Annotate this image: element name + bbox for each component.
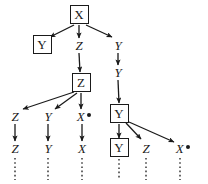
tree-edge-n0-to-n1 (50, 25, 74, 37)
node-label: Z (11, 142, 18, 155)
derivation-tree-figure: XYZYZYYZYXZYXYZX (0, 0, 208, 184)
node-label: Z (142, 142, 149, 155)
node-label: Y (37, 38, 46, 51)
node-label: X (77, 110, 85, 123)
tree-node-n15-x: X (172, 141, 194, 155)
terminal-marker-dot-icon (87, 113, 91, 117)
tree-node-n11-y: Y (41, 141, 55, 155)
node-label: Z (77, 76, 85, 89)
tree-node-n5-y: Y (111, 65, 125, 79)
tree-node-n10-z: Z (8, 141, 22, 155)
tree-node-n6-y-boxed: Y (110, 104, 129, 123)
node-label: Y (114, 39, 121, 52)
node-label: Z (11, 110, 18, 123)
tree-node-n14-z: Z (139, 141, 153, 155)
tree-edge-n0-to-n3 (86, 25, 112, 37)
node-label: Y (44, 110, 51, 123)
tree-node-n9-x: X (73, 109, 95, 123)
tree-node-n0-x-boxed: X (70, 5, 89, 24)
node-label: X (78, 142, 86, 155)
tree-node-n8-y: Y (41, 109, 55, 123)
tree-node-n13-y-boxed: Y (110, 138, 129, 157)
tree-edge-n2-to-n4 (79, 53, 80, 72)
tree-node-n12-x: X (75, 141, 89, 155)
node-label: Y (44, 142, 51, 155)
terminal-marker-dot-icon (186, 145, 190, 149)
node-label: Y (114, 66, 121, 79)
node-label: Z (75, 39, 82, 52)
node-label: X (176, 142, 184, 155)
tree-edge-n5-to-n6 (118, 80, 119, 103)
node-label: X (74, 8, 83, 21)
tree-node-n7-z: Z (8, 109, 22, 123)
tree-node-n3-y: Y (111, 38, 125, 52)
node-label: Y (114, 107, 123, 120)
tree-node-n2-z: Z (72, 38, 86, 52)
tree-edge-n4-to-n8 (55, 93, 77, 109)
continuation-group (15, 158, 180, 180)
tree-node-n1-y-boxed: Y (33, 35, 52, 54)
node-label: Y (114, 141, 123, 154)
tree-edges-layer (0, 0, 208, 184)
tree-node-n4-z-boxed: Z (72, 73, 91, 92)
tree-edge-n6-to-n15 (129, 122, 174, 142)
